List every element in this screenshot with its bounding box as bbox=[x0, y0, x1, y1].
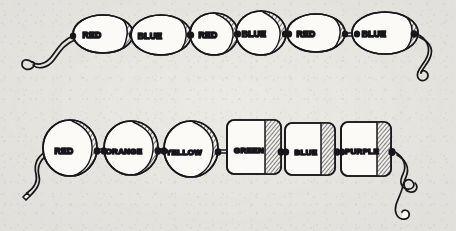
bead-label: BLUE bbox=[138, 31, 162, 41]
bottom-strand: RED ORANGE bbox=[23, 116, 417, 219]
bead-bottom-5: BLUE bbox=[283, 120, 342, 180]
bead-label: BLUE bbox=[242, 29, 266, 39]
bead-bottom-3: YELLOW bbox=[161, 117, 223, 179]
bead-label: RED bbox=[297, 29, 316, 39]
bead-label: PURPLE bbox=[345, 147, 380, 156]
bead-top-1: RED bbox=[70, 12, 140, 56]
bead-label: RED bbox=[55, 146, 74, 156]
bead-top-6: BLUE bbox=[352, 8, 424, 57]
string-end-left-top bbox=[22, 36, 75, 69]
top-strand: RED BLUE bbox=[22, 8, 431, 81]
bead-label: GREEN bbox=[234, 146, 264, 155]
bead-label: BLUE bbox=[362, 29, 386, 39]
bead-label: YELLOW bbox=[166, 148, 202, 157]
bead-label: ORANGE bbox=[106, 147, 143, 156]
bead-label: RED bbox=[199, 30, 218, 40]
string-end-right-bottom bbox=[395, 152, 417, 219]
string-end-right-top bbox=[417, 34, 431, 81]
bead-bottom-2: ORANGE bbox=[101, 117, 163, 177]
illustration-canvas: RED BLUE bbox=[0, 0, 456, 231]
bead-bottom-4: GREEN bbox=[227, 118, 288, 178]
string-end-left-bottom bbox=[23, 152, 47, 200]
bead-label: BLUE bbox=[295, 148, 318, 157]
bead-top-4: BLUE bbox=[235, 8, 292, 58]
bead-top-5: RED bbox=[286, 10, 352, 55]
bead-label: RED bbox=[83, 30, 102, 40]
beaded-strings-artwork: RED BLUE bbox=[0, 0, 456, 231]
bead-bottom-1: RED bbox=[43, 116, 102, 178]
bead-bottom-6: PURPLE bbox=[339, 119, 398, 180]
